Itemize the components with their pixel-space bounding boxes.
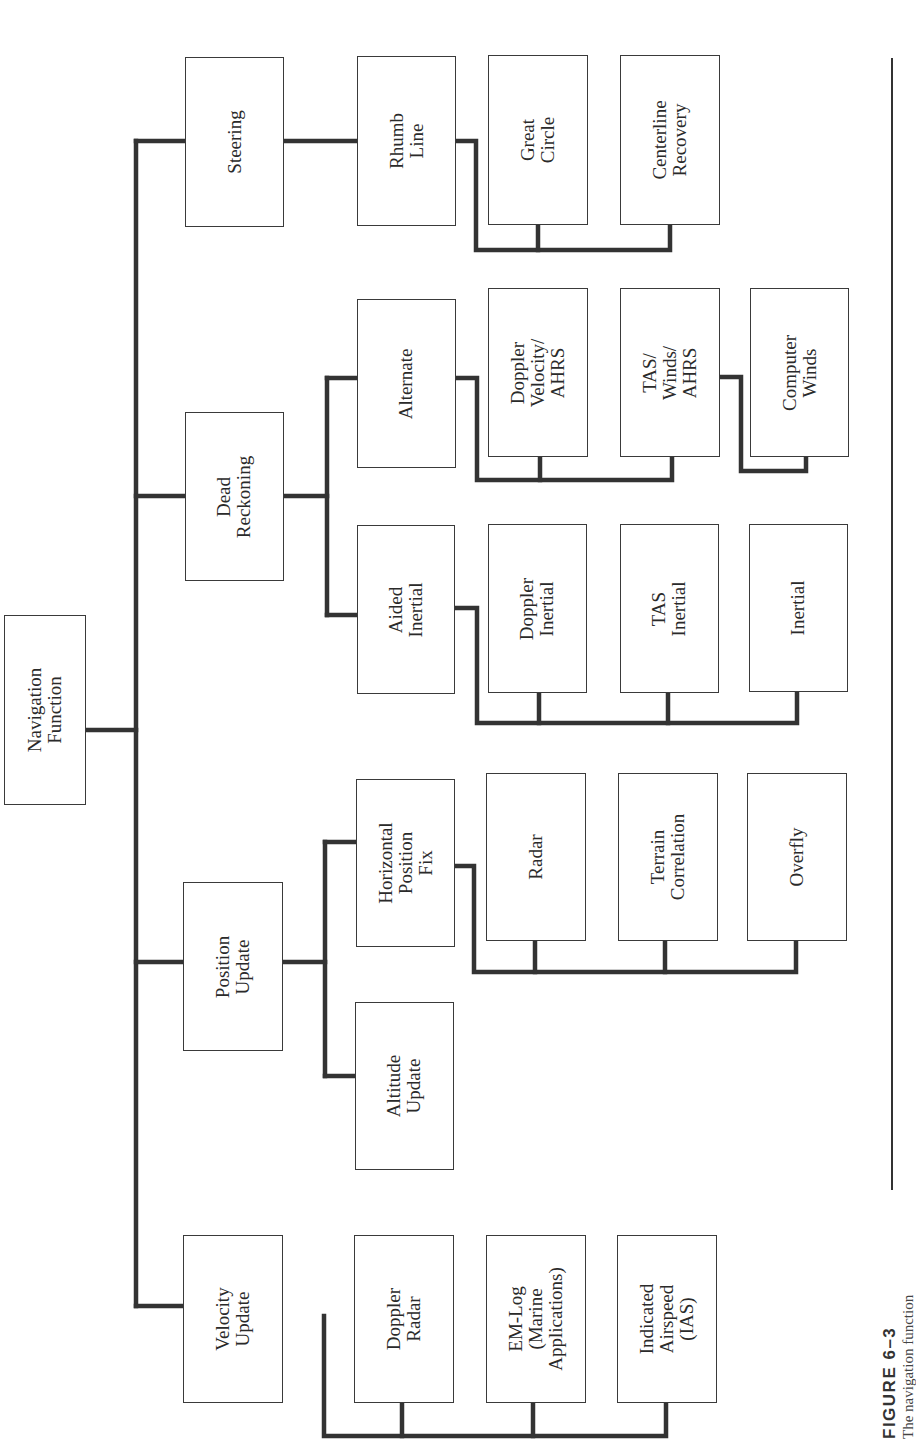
node-label: EM-Log (Marine Applications) [506, 1267, 566, 1370]
figure-description: The navigation function [900, 1295, 916, 1439]
node-label: Indicated Airspeed (IAS) [637, 1284, 697, 1355]
node-navigation-function: Navigation Function [4, 615, 86, 805]
node-velocity-update: Velocity Update [183, 1235, 283, 1403]
figure-label: FIGURE 6–3 [880, 1295, 900, 1439]
node-label: Inertial [788, 581, 808, 636]
node-label: Terrain Correlation [648, 814, 688, 901]
node-label: Radar [526, 834, 546, 879]
node-label: Doppler Velocity/ AHRS [508, 338, 568, 407]
node-alternate: Alternate [357, 299, 456, 468]
node-tas-inertial: TAS Inertial [620, 524, 719, 693]
node-overfly: Overfly [747, 773, 847, 941]
node-computer-winds: Computer Winds [750, 288, 849, 457]
node-steering: Steering [185, 57, 284, 227]
node-label: Aided Inertial [386, 582, 426, 637]
node-label: Dead Reckoning [214, 455, 254, 537]
node-great-circle: Great Circle [488, 55, 588, 225]
node-doppler-inertial: Doppler Inertial [488, 524, 587, 693]
node-label: Doppler Inertial [517, 577, 557, 639]
node-indicated-airspeed: Indicated Airspeed (IAS) [617, 1235, 717, 1403]
node-centerline-recovery: Centerline Recovery [620, 55, 720, 225]
node-doppler-velocity-ahrs: Doppler Velocity/ AHRS [488, 288, 588, 457]
node-label: Great Circle [518, 117, 558, 163]
node-horizontal-position-fix: Horizontal Position Fix [356, 779, 455, 947]
figure-caption: FIGURE 6–3 The navigation function [880, 1295, 916, 1439]
node-radar: Radar [486, 773, 586, 941]
node-label: Overfly [787, 827, 807, 886]
node-position-update: Position Update [183, 882, 283, 1051]
node-label: Position Update [213, 935, 253, 997]
node-label: Navigation Function [25, 668, 65, 752]
caption-rule [891, 58, 893, 1190]
node-inertial: Inertial [749, 524, 848, 692]
node-dead-reckoning: Dead Reckoning [185, 412, 284, 581]
node-label: Horizontal Position Fix [375, 822, 435, 903]
node-label: TAS/ Winds/ AHRS [640, 345, 700, 399]
node-em-log: EM-Log (Marine Applications) [486, 1235, 586, 1403]
node-label: Altitude Update [385, 1055, 425, 1117]
node-label: Alternate [397, 348, 417, 419]
node-label: Computer Winds [780, 335, 820, 411]
node-doppler-radar: Doppler Radar [354, 1235, 454, 1403]
node-label: Steering [224, 110, 244, 173]
node-label: TAS Inertial [649, 581, 689, 636]
node-label: Rhumb Line [386, 113, 426, 169]
node-aided-inertial: Aided Inertial [357, 525, 455, 694]
node-label: Velocity Update [213, 1287, 253, 1350]
node-label: Doppler Radar [384, 1288, 424, 1350]
node-label: Centerline Recovery [650, 100, 690, 179]
node-tas-winds-ahrs: TAS/ Winds/ AHRS [620, 288, 720, 457]
node-rhumb-line: Rhumb Line [357, 56, 456, 226]
node-terrain-correlation: Terrain Correlation [618, 773, 718, 941]
node-altitude-update: Altitude Update [355, 1002, 454, 1170]
